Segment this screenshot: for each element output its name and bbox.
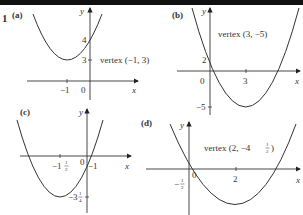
x-tick-a-0: 0: [81, 85, 86, 95]
part-label-a: (a): [12, 10, 23, 20]
y-tick-b-neg5: −5: [196, 102, 206, 112]
graph-a: (a) y x −1 0 4 3 vertex (−1, 3): [12, 6, 149, 100]
x-tick-c-0: 0: [80, 157, 85, 167]
y-label-a: y: [79, 6, 84, 16]
x-tick-a-neg1: −1: [60, 85, 70, 95]
figure-canvas: 1 (a) y x −1 0 4 3 vertex (−1, 3) (b) y …: [0, 0, 303, 215]
svg-text:1: 1: [181, 178, 184, 183]
vertex-annotation-b: vertex (3, −5): [218, 29, 267, 39]
x-tick-d-2: 2: [233, 174, 238, 184]
part-label-b: (b): [172, 10, 183, 20]
svg-text:−: −: [174, 179, 179, 189]
y-tick-b-2: 2: [202, 55, 207, 65]
svg-text:2: 2: [65, 167, 68, 172]
y-tick-a-3: 3: [82, 55, 87, 65]
y-label-c: y: [78, 107, 83, 117]
part-label-d: (d): [141, 118, 152, 128]
x-label-d: x: [295, 175, 300, 185]
vertex-annotation-d: vertex (2, −4 1 2 ): [204, 142, 274, 154]
parabola-c: [17, 120, 103, 197]
svg-text:4: 4: [79, 198, 82, 203]
x-tick-b-3: 3: [243, 76, 248, 86]
graph-b: (b) y x 0 3 2 −5 vertex (3, −5): [172, 6, 300, 115]
problem-number: 1: [2, 12, 8, 24]
svg-text:1: 1: [65, 160, 68, 165]
parabola-a: [33, 14, 102, 60]
part-label-c: (c): [20, 107, 30, 117]
x-label-b: x: [294, 76, 299, 86]
vertex-annotation-a: vertex (−1, 3): [100, 55, 149, 65]
y-label-b: y: [201, 6, 206, 16]
parabola-b: [192, 8, 299, 107]
x-label-a: x: [131, 85, 136, 95]
y-label-d: y: [179, 120, 184, 130]
x-tick-c-neg1-half: −1 1 2: [52, 160, 69, 172]
svg-text:): ): [271, 143, 274, 153]
x-label-c: x: [124, 161, 129, 171]
x-tick-c-neg1: −1: [88, 161, 98, 171]
svg-text:−1: −1: [52, 161, 62, 171]
svg-text:2: 2: [181, 185, 184, 190]
y-tick-d-neg-half: − 1 2: [174, 178, 185, 190]
x-tick-b-0: 0: [200, 76, 205, 86]
svg-text:1: 1: [266, 142, 269, 147]
graph-c: (c) y x −1 1 2 0 −1 −3 1 4: [17, 107, 131, 213]
y-tick-a-4: 4: [82, 35, 87, 45]
svg-text:vertex (2, −4: vertex (2, −4: [204, 143, 251, 153]
graph-d: (d) y x 0 2 − 1 2 vertex (2, −4 1 2 ): [141, 118, 300, 215]
svg-text:1: 1: [79, 191, 82, 196]
svg-text:2: 2: [266, 149, 269, 154]
